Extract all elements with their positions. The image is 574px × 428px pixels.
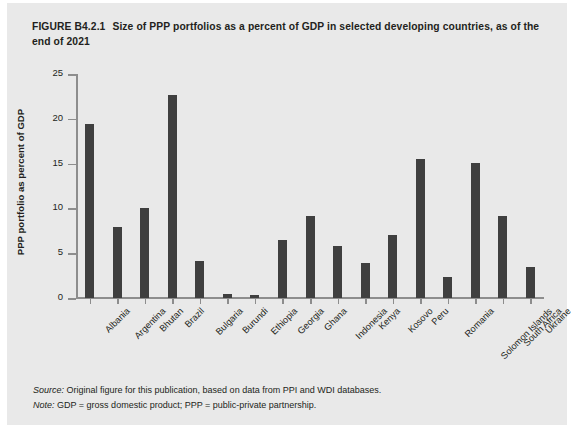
x-axis-category-label: Solomon Islands xyxy=(499,306,554,361)
bar xyxy=(388,235,397,298)
x-axis-category-label: Ghana xyxy=(322,306,349,333)
bar xyxy=(471,163,480,298)
source-label: Source: xyxy=(33,385,64,395)
figure-source: Source: Original figure for this publica… xyxy=(33,383,548,398)
bar xyxy=(306,216,315,298)
x-axis-category-labels: AlbaniaArgentinaBhutanBrazilBulgariaBuru… xyxy=(76,306,544,376)
bars-layer xyxy=(76,74,544,298)
x-axis-category-label: Peru xyxy=(430,306,451,327)
x-axis-category-label: Ethiopia xyxy=(269,306,300,337)
x-axis-category-label: Brazil xyxy=(183,306,206,329)
note-text: GDP = gross domestic product; PPP = publ… xyxy=(55,400,317,410)
x-axis-tick xyxy=(200,298,202,304)
bar xyxy=(140,208,149,298)
y-axis-tick-label: 15 xyxy=(52,157,63,168)
bar xyxy=(361,263,370,298)
x-axis-category-label: Romania xyxy=(462,306,495,339)
bar xyxy=(443,277,452,298)
figure-title-text: Size of PPP portfolios as a percent of G… xyxy=(32,21,539,47)
y-axis-tick: 10 xyxy=(68,208,76,210)
x-axis-category-label: Burundi xyxy=(241,306,270,335)
y-axis-tick: 5 xyxy=(68,253,76,255)
y-axis-tick: 25 xyxy=(68,74,76,76)
figure-notes: Source: Original figure for this publica… xyxy=(33,383,548,412)
x-axis-category-label: Albania xyxy=(103,306,132,335)
bar xyxy=(416,159,425,298)
x-axis-tick xyxy=(503,298,505,304)
x-axis-tick xyxy=(393,298,395,304)
figure-panel: FIGURE B4.2.1Size of PPP portfolios as a… xyxy=(7,3,567,425)
x-axis-category-label: Georgia xyxy=(296,306,326,336)
figure-note: Note: GDP = gross domestic product; PPP … xyxy=(33,398,548,413)
x-axis-tick xyxy=(145,298,147,304)
x-axis-tick xyxy=(448,298,450,304)
source-text: Original figure for this publication, ba… xyxy=(64,385,381,395)
x-axis-tick xyxy=(310,298,312,304)
x-axis-tick xyxy=(117,298,119,304)
bar xyxy=(195,261,204,298)
figure-number: FIGURE B4.2.1 xyxy=(32,21,105,32)
y-axis-tick-label: 10 xyxy=(52,201,63,212)
bar xyxy=(333,246,342,298)
y-axis-tick: 15 xyxy=(68,164,76,166)
y-axis-tick-label: 0 xyxy=(58,291,63,302)
bar xyxy=(113,227,122,298)
x-axis-tick xyxy=(420,298,422,304)
x-axis-tick xyxy=(90,298,92,304)
y-axis-tick-label: 20 xyxy=(52,112,63,123)
bar xyxy=(85,124,94,298)
chart-plot-area: PPP portfolio as percent of GDP 05101520… xyxy=(32,63,547,313)
note-label: Note: xyxy=(33,400,55,410)
y-axis-title: PPP portfolio as percent of GDP xyxy=(15,63,29,301)
x-axis-category-label: Bulgaria xyxy=(214,306,245,337)
bar xyxy=(168,95,177,298)
figure-title: FIGURE B4.2.1Size of PPP portfolios as a… xyxy=(32,19,547,49)
x-axis-tick xyxy=(255,298,257,304)
y-axis-tick: 0 xyxy=(68,298,76,300)
y-axis-tick-label: 25 xyxy=(52,67,63,78)
x-axis-tick xyxy=(365,298,367,304)
bar xyxy=(278,240,287,298)
y-axis-tick: 20 xyxy=(68,119,76,121)
bar xyxy=(250,295,259,298)
x-axis-tick xyxy=(475,298,477,304)
x-axis-tick xyxy=(338,298,340,304)
x-axis-tick xyxy=(172,298,174,304)
bar xyxy=(526,267,535,298)
bar xyxy=(498,216,507,298)
bar xyxy=(223,294,232,298)
x-axis-tick xyxy=(530,298,532,304)
x-axis-tick xyxy=(227,298,229,304)
x-axis-tick xyxy=(282,298,284,304)
y-axis-tick-label: 5 xyxy=(58,246,63,257)
